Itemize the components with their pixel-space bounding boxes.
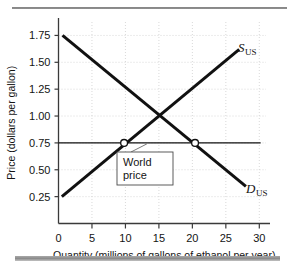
world-price-callout-line1: World — [123, 156, 152, 168]
figure-container: 0.250.500.751.001.251.501.75051015202530… — [0, 0, 291, 269]
y-tick-label-0.25: 0.25 — [29, 191, 50, 203]
x-tick-label-5: 5 — [89, 232, 95, 244]
x-tick-label-10: 10 — [119, 232, 131, 244]
x-tick-label-20: 20 — [186, 232, 198, 244]
supply-curve-label-main: SUS — [238, 40, 257, 57]
world-price-callout-line2: price — [123, 169, 147, 181]
y-tick-label-1.00: 1.00 — [29, 110, 50, 122]
y-tick-label-1.75: 1.75 — [29, 29, 50, 41]
x-tick-label-30: 30 — [253, 232, 265, 244]
supply-curve-label: SUS — [238, 40, 257, 57]
x-tick-label-15: 15 — [153, 232, 165, 244]
y-axis-title: Price (dollars per gallon) — [5, 66, 17, 180]
y-tick-label-1.25: 1.25 — [29, 83, 50, 95]
marker-demand-at-world-price — [192, 140, 199, 147]
marker-supply-at-world-price — [121, 140, 128, 147]
demand-curve-label-main: DUS — [245, 181, 267, 198]
demand-curve-label: DUS — [245, 181, 267, 198]
world-price-leader-line — [131, 144, 147, 152]
y-tick-label-0.75: 0.75 — [29, 137, 50, 149]
top-divider-rule — [12, 7, 287, 9]
x-tick-label-25: 25 — [220, 232, 232, 244]
bottom-divider-rule — [15, 256, 280, 261]
supply-demand-chart: 0.250.500.751.001.251.501.75051015202530… — [0, 0, 291, 269]
y-tick-label-1.50: 1.50 — [29, 56, 50, 68]
demand-curve-label-sub: US — [256, 188, 268, 198]
y-tick-label-0.50: 0.50 — [29, 164, 50, 176]
y-axis-ticks: 0.250.500.751.001.251.501.75 — [29, 29, 58, 202]
x-axis-ticks: 051015202530 — [55, 224, 265, 244]
supply-curve-label-sub: US — [245, 47, 257, 57]
world-price-annotation: Worldprice — [117, 144, 173, 185]
x-tick-label-0: 0 — [55, 232, 61, 244]
